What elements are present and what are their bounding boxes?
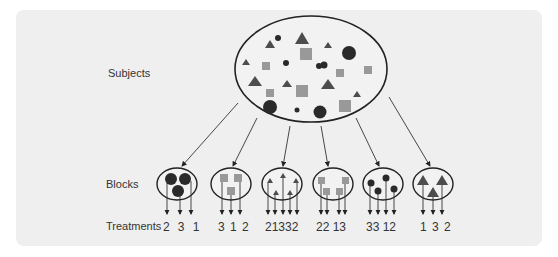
subjects-population (235, 16, 387, 122)
block-5-treatments: 33 12 (366, 220, 396, 234)
block-6-treatments: 1 3 2 (420, 220, 452, 234)
block-3-treatments: 21332 (265, 220, 298, 234)
block-1 (157, 168, 197, 214)
block-4-treatments: 22 13 (316, 220, 346, 234)
block-5 (363, 168, 403, 214)
block-6 (413, 168, 453, 214)
block-3 (262, 168, 302, 214)
block-2-treatments: 3 1 2 (218, 220, 250, 234)
blocking-diagram (0, 0, 558, 257)
block-4 (313, 168, 353, 214)
block-1-treatments: 2 3 1 (163, 220, 200, 234)
block-2 (211, 168, 251, 214)
